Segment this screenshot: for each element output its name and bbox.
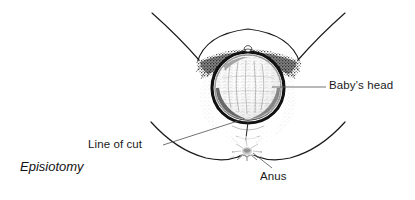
right-thigh [291,13,345,67]
label-babys-head: Baby’s head [329,79,393,92]
episiotomy-figure: Baby’s head Line of cut Anus Episiotomy [0,0,415,200]
label-line-of-cut: Line of cut [88,138,142,151]
figure-caption: Episiotomy [20,159,84,174]
label-anus: Anus [260,170,287,183]
perineal-shading [226,136,268,158]
leader-anus [253,153,272,168]
